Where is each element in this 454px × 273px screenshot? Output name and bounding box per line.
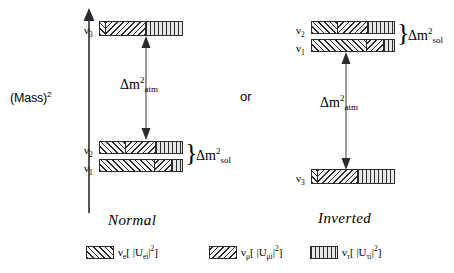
inverted-nu1-segment-nu-tau xyxy=(383,40,394,51)
legend-nu-mu-bracket-end: ] xyxy=(279,246,283,258)
normal-nu3-label: ν3 xyxy=(84,24,93,39)
normal-level-nu3-bar xyxy=(99,21,183,36)
legend-nu-e-bracket-open: [ |U xyxy=(126,246,143,258)
normal-dm-sol-subscript: sol xyxy=(220,155,231,165)
mass-axis-label-exponent: 2 xyxy=(47,90,51,99)
legend-swatch-nu-mu-icon xyxy=(209,246,237,259)
inverted-hierarchy-title: Inverted xyxy=(318,210,371,227)
mass-axis-label-text: (Mass) xyxy=(10,91,47,105)
inverted-nu3-subscript: 3 xyxy=(301,178,305,187)
normal-level-nu2-bar xyxy=(99,141,183,154)
inverted-level-nu1-bar xyxy=(311,39,395,52)
normal-nu1-subscript: 1 xyxy=(89,168,93,177)
inverted-delta-m2-sol-label: Δm2sol xyxy=(408,27,443,45)
inverted-nu2-segment-nu-tau xyxy=(367,22,394,33)
normal-hierarchy-title: Normal xyxy=(108,212,156,229)
inverted-nu2-label: ν2 xyxy=(296,24,305,39)
normal-dm-sol-symbol: Δm xyxy=(196,148,216,163)
inverted-level-nu3-bar xyxy=(311,169,395,184)
legend-nu-tau-bracket-end: ] xyxy=(378,246,382,258)
inverted-nu2-segment-nu-mu xyxy=(337,22,367,33)
legend-swatch-nu-e-icon xyxy=(86,246,114,259)
legend-nu-e-bracket-end: ] xyxy=(154,246,158,258)
legend-item-nu-e: νe[ |Uei|2] xyxy=(86,244,158,261)
mass-axis-label: (Mass)2 xyxy=(10,90,51,105)
inverted-nu1-subscript: 1 xyxy=(301,48,305,57)
legend-nu-tau-bracket-open: [ |U xyxy=(350,246,367,258)
legend-swatch-nu-tau-icon xyxy=(310,246,338,259)
normal-nu2-segment-nu-e xyxy=(100,142,125,153)
inverted-nu3-segment-nu-mu xyxy=(317,170,357,183)
inverted-nu3-segment-nu-tau xyxy=(357,170,394,183)
normal-nu2-segment-nu-mu xyxy=(125,142,155,153)
inverted-dm-sol-symbol: Δm xyxy=(408,28,428,43)
inverted-nu1-label: ν1 xyxy=(296,42,305,57)
normal-nu2-subscript: 2 xyxy=(89,150,93,159)
normal-nu3-segment-nu-tau xyxy=(145,22,182,35)
inverted-nu1-segment-nu-e xyxy=(312,40,366,51)
inverted-dm-atm-symbol: Δm xyxy=(320,95,340,110)
normal-level-nu1-bar xyxy=(99,159,183,172)
or-connector-label: or xyxy=(240,89,252,104)
inverted-level-nu2-bar xyxy=(311,21,395,34)
legend-label-nu-mu: νμ[ |Uμi|2] xyxy=(241,244,282,261)
normal-nu3-subscript: 3 xyxy=(89,30,93,39)
legend-item-nu-mu: νμ[ |Uμi|2] xyxy=(209,244,282,261)
normal-dm-atm-symbol: Δm xyxy=(120,77,140,92)
normal-delta-m2-sol-label: Δm2sol xyxy=(196,147,231,165)
neutrino-mass-hierarchy-figure: (Mass)2 or ν3 Δm2atm ν2 ν1 } Δm2so xyxy=(0,0,454,273)
inverted-dm-atm-subscript: atm xyxy=(344,102,358,112)
inverted-delta-m2-atm-label: Δm2atm xyxy=(320,94,358,112)
legend-item-nu-tau: ντ[ |Uτi|2] xyxy=(310,244,381,261)
inverted-nu3-label: ν3 xyxy=(296,172,305,187)
legend-label-nu-e: νe[ |Uei|2] xyxy=(118,244,158,261)
normal-nu1-segment-nu-e xyxy=(100,160,154,171)
normal-nu1-label: ν1 xyxy=(84,162,93,177)
normal-nu3-segment-nu-mu xyxy=(105,22,145,35)
normal-delta-m2-atm-label: Δm2atm xyxy=(120,76,158,94)
normal-dm-atm-subscript: atm xyxy=(144,84,158,94)
normal-nu1-segment-nu-mu xyxy=(154,160,170,171)
legend-label-nu-tau: ντ[ |Uτi|2] xyxy=(342,244,381,261)
inverted-nu1-segment-nu-mu xyxy=(366,40,382,51)
normal-nu1-segment-nu-tau xyxy=(171,160,182,171)
normal-nu2-segment-nu-tau xyxy=(155,142,182,153)
inverted-nu2-segment-nu-e xyxy=(312,22,337,33)
inverted-nu2-subscript: 2 xyxy=(301,30,305,39)
normal-nu2-label: ν2 xyxy=(84,144,93,159)
inverted-dm-sol-subscript: sol xyxy=(432,35,443,45)
legend-nu-mu-bracket-open: [ |U xyxy=(250,246,267,258)
